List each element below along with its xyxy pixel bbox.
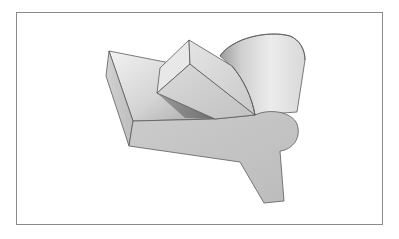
front-face-disk-tab: [129, 112, 298, 203]
figure-canvas: Shaded 3D solid: rectangular plate with …: [0, 0, 399, 239]
solid-drawing: [0, 0, 399, 239]
